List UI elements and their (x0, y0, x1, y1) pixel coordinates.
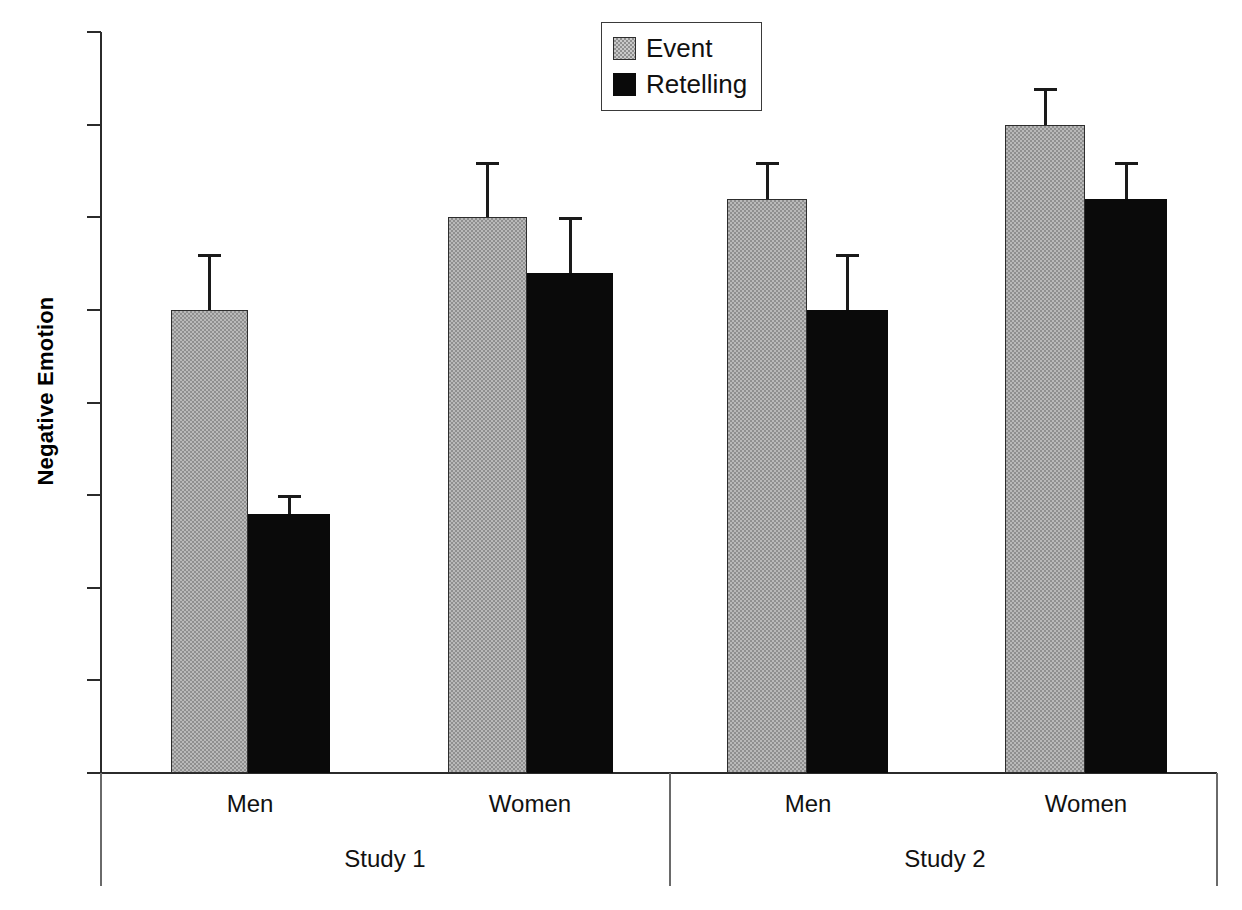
legend-swatch-event-icon (613, 37, 636, 60)
negative-emotion-bar-chart: Negative Emotion 00.511.522.533.54 Men W… (0, 0, 1242, 910)
error-bar-cap (198, 254, 221, 257)
y-tick-1 (87, 587, 101, 589)
bar-study1-men-retelling[interactable] (248, 514, 330, 773)
error-bar-stem (766, 162, 769, 199)
y-tick-0.5 (87, 679, 101, 681)
bar-study1-women-event[interactable] (448, 217, 527, 773)
x-axis-right-end-tick (1216, 773, 1218, 886)
error-bar-stem (1044, 88, 1047, 125)
y-tick-1.5 (87, 494, 101, 496)
legend-swatch-retelling-icon (613, 73, 636, 96)
legend-label-event: Event (646, 35, 713, 61)
error-bar-stem (569, 217, 572, 273)
y-tick-4 (87, 31, 101, 33)
error-bar-stem (208, 254, 211, 310)
y-tick-0 (87, 772, 101, 774)
legend-item-retelling[interactable]: Retelling (613, 66, 747, 102)
legend-item-event[interactable]: Event (613, 30, 747, 66)
error-bar-cap (1034, 88, 1057, 91)
error-bar-cap (1115, 162, 1138, 165)
category-label-study2-women: Women (976, 790, 1196, 818)
error-bar-cap (476, 162, 499, 165)
y-tick-2 (87, 402, 101, 404)
error-bar-cap (836, 254, 859, 257)
bar-study2-women-retelling[interactable] (1085, 199, 1167, 773)
error-bar-cap (278, 495, 301, 498)
legend: Event Retelling (601, 22, 762, 111)
error-bar-stem (486, 162, 489, 218)
bar-study1-women-retelling[interactable] (527, 273, 613, 773)
y-tick-3.5 (87, 124, 101, 126)
category-label-study1-men: Men (140, 790, 360, 818)
plot-area (100, 32, 1217, 773)
category-label-study2-men: Men (698, 790, 918, 818)
y-tick-3 (87, 216, 101, 218)
legend-label-retelling: Retelling (646, 71, 747, 97)
bar-study2-men-event[interactable] (727, 199, 807, 773)
y-axis-title: Negative Emotion (33, 241, 59, 541)
bar-study1-men-event[interactable] (171, 310, 248, 773)
bar-study2-women-event[interactable] (1005, 125, 1085, 773)
error-bar-cap (756, 162, 779, 165)
error-bar-stem (1125, 162, 1128, 199)
group-divider (669, 773, 671, 886)
error-bar-stem (846, 254, 849, 310)
y-axis-title-wrapper: Negative Emotion (14, 250, 54, 550)
group-label-study-1: Study 1 (225, 845, 545, 873)
category-label-study1-women: Women (420, 790, 640, 818)
bar-study2-men-retelling[interactable] (807, 310, 888, 773)
x-axis-left-end-tick (100, 773, 102, 886)
group-label-study-2: Study 2 (785, 845, 1105, 873)
error-bar-cap (559, 217, 582, 220)
y-tick-2.5 (87, 309, 101, 311)
